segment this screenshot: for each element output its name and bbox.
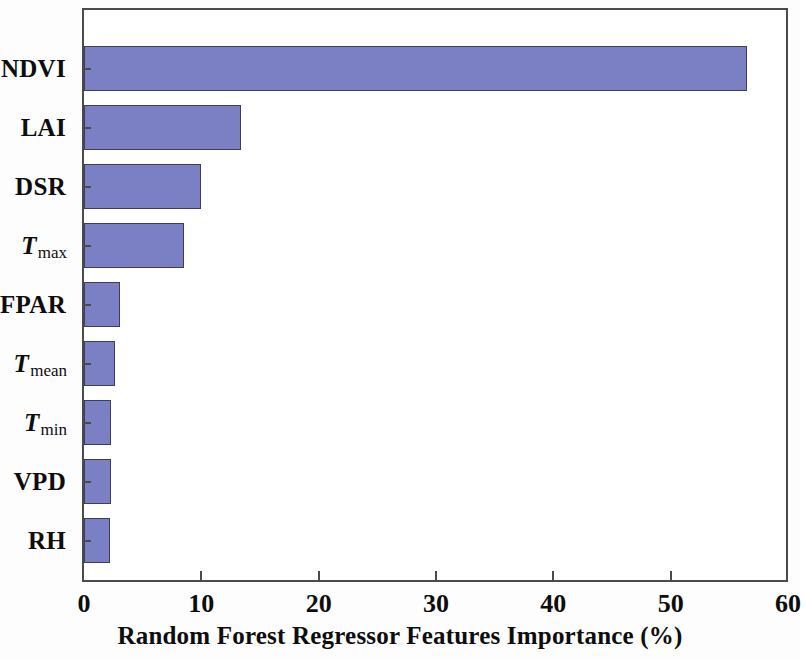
y-axis-tick (82, 245, 91, 247)
x-axis-tick (318, 571, 320, 582)
y-label-subscript: min (41, 420, 67, 440)
x-axis-tick-label: 40 (513, 589, 593, 619)
y-axis-category-labels: NDVILAIDSRTmaxFPARTmeanTminVPDRH (0, 10, 76, 582)
y-label-subscript: max (38, 243, 67, 263)
bar-fill (84, 223, 184, 268)
x-axis-title: Random Forest Regressor Features Importa… (0, 622, 800, 650)
x-axis-tick (552, 571, 554, 582)
y-axis-label-rh: RH (28, 518, 66, 563)
y-axis-label-tmean: Tmean (14, 341, 66, 386)
bars-layer (84, 10, 788, 582)
y-axis-tick (82, 540, 91, 542)
y-axis-tick (82, 127, 91, 129)
y-label-symbol: T (24, 409, 40, 437)
y-axis-tick (82, 422, 91, 424)
x-axis-tick-label: 20 (279, 589, 359, 619)
y-axis-label-lai: LAI (21, 105, 66, 150)
x-axis-tick-label: 0 (44, 589, 124, 619)
y-axis-tick (82, 481, 91, 483)
x-axis-tick-label: 10 (161, 589, 241, 619)
y-label-symbol: T (21, 232, 37, 260)
y-axis-label-ndvi: NDVI (1, 46, 66, 91)
y-label-symbol: T (14, 350, 30, 378)
y-axis-tick (82, 363, 91, 365)
bar-fill (84, 164, 201, 209)
bar-fill (84, 46, 747, 91)
y-axis-label-vpd: VPD (14, 459, 66, 504)
x-axis-tick (670, 571, 672, 582)
y-axis-label-fpar: FPAR (0, 282, 66, 327)
y-axis-label-tmax: Tmax (21, 223, 66, 268)
x-axis-tick-label: 50 (631, 589, 711, 619)
x-axis-tick-label: 30 (396, 589, 476, 619)
y-axis-tick (82, 68, 91, 70)
y-label-subscript: mean (30, 361, 67, 381)
bar-fill (84, 105, 241, 150)
x-axis-tick (435, 571, 437, 582)
x-axis-tick (200, 571, 202, 582)
y-axis-tick (82, 186, 91, 188)
x-axis-tick-label: 60 (748, 589, 805, 619)
y-axis-tick (82, 304, 91, 306)
y-axis-label-dsr: DSR (15, 164, 66, 209)
y-axis-label-tmin: Tmin (24, 400, 66, 445)
